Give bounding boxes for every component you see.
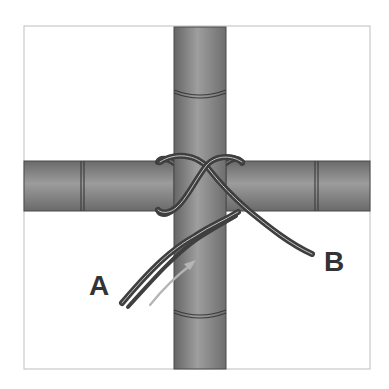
label-a: A	[89, 270, 109, 301]
label-b: B	[324, 246, 344, 277]
lashing-diagram: A B	[0, 0, 389, 389]
